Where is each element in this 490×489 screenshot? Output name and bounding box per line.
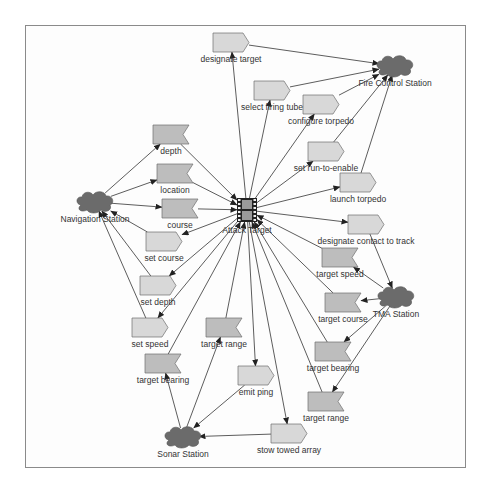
data-flag-icon — [325, 293, 361, 312]
tma-station-label: TMA Station — [373, 309, 419, 319]
course-node[interactable] — [162, 199, 198, 218]
emit-ping-node[interactable] — [238, 366, 274, 385]
designate-contact-to-track-node[interactable] — [348, 215, 384, 234]
launch-torpedo-label: launch torpedo — [330, 194, 386, 204]
attack-target-label: Attack Target — [222, 225, 271, 235]
select-firing-tube-node[interactable] — [254, 81, 290, 100]
edge-sonar-station-to-target-range-sonar — [186, 337, 220, 428]
set-depth-label: set depth — [141, 297, 176, 307]
course-label: course — [167, 220, 193, 230]
target-bearing-sonar-label: target bearing — [137, 375, 189, 385]
target-speed-tma-label: target speed — [316, 269, 363, 279]
designate-target-label: designate target — [201, 54, 262, 64]
launch-torpedo-node[interactable] — [340, 173, 376, 192]
action-shape-icon — [140, 276, 176, 295]
stow-towed-array-node[interactable] — [271, 424, 307, 443]
edge-navigation-station-to-depth — [105, 144, 160, 193]
target-range-tma-node[interactable] — [308, 392, 344, 411]
action-shape-icon — [146, 232, 182, 251]
set-run-to-enable-label: set run-to-enable — [294, 163, 358, 173]
set-course-label: set course — [144, 253, 183, 263]
navigation-station-label: Navigation Station — [61, 214, 130, 224]
set-depth-node[interactable] — [140, 276, 176, 295]
sonar-station-label: Sonar Station — [157, 449, 209, 459]
location-node[interactable] — [157, 164, 193, 183]
sonar-station-cloud-icon[interactable] — [165, 427, 201, 448]
edge-launch-torpedo-to-fire-control-station — [361, 75, 392, 173]
edge-attack-target-to-designate-contact-to-track — [257, 211, 348, 222]
depth-node[interactable] — [153, 125, 189, 144]
set-run-to-enable-node[interactable] — [308, 142, 344, 161]
location-label: location — [160, 185, 189, 195]
action-shape-icon — [132, 318, 168, 337]
depth-label: depth — [160, 146, 181, 156]
action-shape-icon — [303, 95, 339, 114]
tma-station-cloud-icon[interactable] — [378, 287, 414, 308]
film-strip-icon[interactable] — [237, 198, 257, 222]
target-course-tma-label: target course — [318, 314, 368, 324]
data-flag-icon — [162, 199, 198, 218]
emit-ping-label: emit ping — [239, 387, 274, 397]
edge-attack-target-to-designate-target — [232, 52, 246, 198]
target-range-tma-label: target range — [303, 413, 349, 423]
edge-attack-target-to-select-firing-tube — [250, 100, 271, 198]
configure-torpedo-node[interactable] — [303, 95, 339, 114]
action-shape-icon — [340, 173, 376, 192]
edge-attack-target-to-launch-torpedo — [257, 187, 340, 208]
navigation-station-cloud-icon[interactable] — [77, 192, 113, 213]
edge-tma-station-to-target-course-tma — [361, 299, 380, 301]
fire-control-station-label: Fire Control Station — [358, 78, 431, 88]
target-range-sonar-node[interactable] — [206, 318, 242, 337]
data-flag-icon — [308, 392, 344, 411]
select-firing-tube-label: select firing tube — [241, 102, 303, 112]
stow-towed-array-label: stow towed array — [257, 445, 321, 455]
fire-control-station-cloud-icon[interactable] — [377, 56, 413, 77]
edge-emit-ping-to-sonar-station — [194, 385, 245, 428]
target-bearing-tma-node[interactable] — [315, 342, 351, 361]
action-shape-icon — [308, 142, 344, 161]
action-shape-icon — [254, 81, 290, 100]
action-shape-icon — [348, 215, 384, 234]
target-course-tma-node[interactable] — [325, 293, 361, 312]
set-course-node[interactable] — [146, 232, 182, 251]
edge-course-to-attack-target — [198, 209, 237, 210]
data-flag-icon — [315, 342, 351, 361]
edge-target-bearing-tma-to-attack-target — [254, 222, 327, 342]
set-speed-label: set speed — [132, 339, 169, 349]
edge-attack-target-to-emit-ping — [248, 222, 256, 366]
action-shape-icon — [271, 424, 307, 443]
target-bearing-sonar-node[interactable] — [145, 354, 181, 373]
designate-contact-to-track-label: designate contact to track — [318, 236, 415, 246]
edge-stow-towed-array-to-sonar-station — [199, 434, 271, 436]
action-shape-icon — [213, 33, 249, 52]
edge-designate-target-to-fire-control-station — [249, 45, 379, 64]
data-flag-icon — [206, 318, 242, 337]
edge-navigation-station-to-course — [111, 203, 162, 207]
designate-target-node[interactable] — [213, 33, 249, 52]
configure-torpedo-label: configure torpedo — [288, 116, 354, 126]
target-speed-tma-node[interactable] — [322, 248, 358, 267]
set-speed-node[interactable] — [132, 318, 168, 337]
data-flag-icon — [145, 354, 181, 373]
action-shape-icon — [238, 366, 274, 385]
data-flag-icon — [157, 164, 193, 183]
edge-target-range-sonar-to-attack-target — [226, 222, 245, 318]
edge-navigation-station-to-location — [111, 180, 157, 196]
diagram-canvas — [0, 0, 490, 489]
data-flag-icon — [153, 125, 189, 144]
target-range-sonar-label: target range — [201, 339, 247, 349]
target-bearing-tma-label: target bearing — [307, 363, 359, 373]
data-flag-icon — [322, 248, 358, 267]
